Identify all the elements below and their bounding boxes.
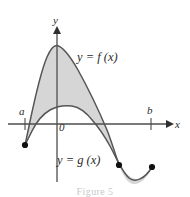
y-axis-arrowhead [53,26,61,34]
lower-limit-label: a [19,106,25,117]
origin-label: 0 [59,122,65,133]
endpoint-dot-g-right [149,164,155,170]
curve-g-of-x [25,106,152,180]
upper-limit-label: b [147,105,153,116]
x-axis-arrowhead [166,120,174,128]
figure-graph-svg [0,0,190,197]
figure-region-between-curves: y x 0 a b y = f (x) y = g (x) Figure 5 [0,0,190,197]
y-axis-label: y [53,15,58,26]
endpoint-dot-f-right [116,162,122,168]
curve-g-label: y = g (x) [57,154,100,167]
endpoint-dot-left [22,142,28,148]
figure-caption: Figure 5 [0,186,190,197]
x-axis-label: x [175,119,180,130]
curve-f-label: y = f (x) [77,51,118,64]
